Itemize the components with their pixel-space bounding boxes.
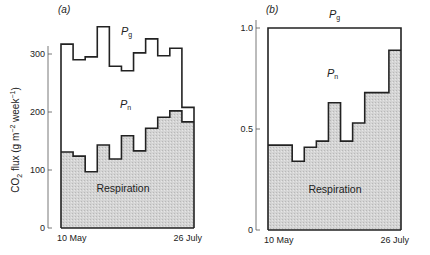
- pn-annotation: Pn: [327, 67, 338, 80]
- y-tick-label: 300: [30, 49, 45, 59]
- panel-label: (b): [266, 4, 278, 15]
- respiration-annotation: Respiration: [308, 183, 361, 195]
- figure-canvas: CO2 flux (g m−2 week−1) 010020030010 May…: [0, 0, 430, 255]
- pg-annotation: Pg: [121, 25, 132, 39]
- y-tick-label: 100: [30, 165, 45, 175]
- respiration-annotation: Respiration: [96, 182, 149, 194]
- y-axis-label: CO2 flux (g m−2 week−1): [9, 87, 23, 192]
- pg-annotation: Pg: [329, 8, 340, 22]
- y-tick-label: 1.0: [240, 23, 253, 33]
- x-end-label: 26 July: [173, 233, 202, 243]
- y-tick-label: 200: [30, 107, 45, 117]
- chart-panel-b: 00.51.010 May26 July(b)PgPnRespiration: [240, 4, 409, 245]
- x-start-label: 10 May: [264, 235, 294, 245]
- x-start-label: 10 May: [57, 233, 87, 243]
- panel-label: (a): [58, 4, 70, 15]
- pn-annotation: Pn: [120, 98, 131, 111]
- chart-panel-a: 010020030010 May26 July(a)PgPnRespiratio…: [30, 4, 203, 243]
- x-end-label: 26 July: [380, 235, 409, 245]
- y-tick-label: 0.5: [240, 124, 253, 134]
- y-tick-label: 0: [40, 223, 45, 233]
- respiration-area: [61, 111, 194, 228]
- y-tick-label: 0: [248, 225, 253, 235]
